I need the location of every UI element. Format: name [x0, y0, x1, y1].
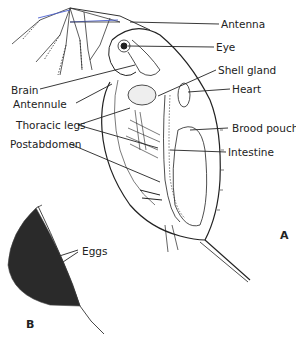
label-antennule: Antennule: [13, 98, 67, 110]
label-brood-pouch: Brood pouch: [232, 122, 296, 134]
daphnia-drawing: [0, 0, 296, 337]
label-postabdomen: Postabdomen: [10, 138, 82, 150]
panel-label-a: A: [280, 229, 289, 242]
label-eye: Eye: [216, 41, 235, 53]
label-antenna: Antenna: [221, 18, 265, 30]
egg-case-drawing: [8, 205, 104, 334]
label-heart: Heart: [232, 83, 261, 95]
label-brain: Brain: [11, 84, 39, 96]
label-shell-gland: Shell gland: [218, 64, 276, 76]
panel-label-b: B: [26, 318, 34, 331]
label-thoracic-legs: Thoracic legs: [16, 119, 86, 131]
daphnia-anatomy-diagram: Antenna Eye Shell gland Heart Brain Ante…: [0, 0, 296, 337]
label-eggs: Eggs: [82, 245, 107, 257]
antenna-drawing: [12, 8, 150, 75]
label-intestine: Intestine: [228, 146, 274, 158]
